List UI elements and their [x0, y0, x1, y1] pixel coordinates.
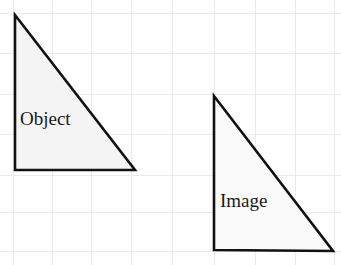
image-triangle-label: Image [220, 190, 267, 211]
diagram-canvas: ObjectImage [0, 0, 341, 265]
diagram-svg: ObjectImage [0, 0, 341, 265]
object-triangle-label: Object [20, 108, 71, 129]
